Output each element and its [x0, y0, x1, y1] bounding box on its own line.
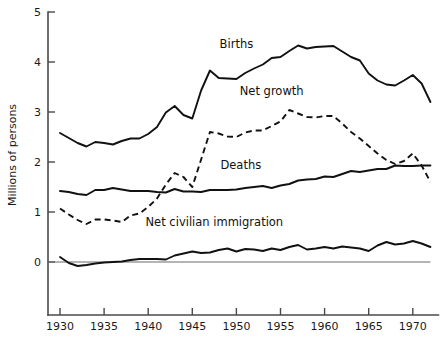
series-label-net-civilian-immigration: Net civilian immigration: [146, 215, 284, 229]
y-tick-label: 0: [34, 256, 41, 269]
x-tick-label: 1940: [134, 320, 162, 333]
y-axis-title: Millions of persons: [6, 104, 19, 206]
x-tick-label: 1965: [355, 320, 383, 333]
y-tick-label: 2: [34, 156, 41, 169]
x-tick-label: 1945: [178, 320, 206, 333]
y-tick-label: 5: [34, 6, 41, 19]
x-tick-label: 1935: [90, 320, 118, 333]
series-label-deaths: Deaths: [220, 158, 261, 172]
x-tick-label: 1960: [311, 320, 339, 333]
y-tick-label: 4: [34, 56, 41, 69]
chart-figure: 012345 193019351940194519501955196019651…: [0, 0, 444, 347]
y-tick-label: 3: [34, 106, 41, 119]
series-label-net-growth: Net growth: [240, 84, 304, 98]
x-tick-label: 1955: [267, 320, 295, 333]
chart-background: [0, 0, 444, 347]
series-label-births: Births: [220, 37, 254, 51]
y-tick-label: 1: [34, 206, 41, 219]
x-tick-label: 1930: [46, 320, 74, 333]
x-tick-label: 1950: [222, 320, 250, 333]
x-tick-label: 1970: [399, 320, 427, 333]
chart-canvas: 012345 193019351940194519501955196019651…: [0, 0, 444, 347]
